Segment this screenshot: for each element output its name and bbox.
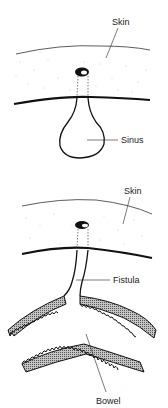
skin-surface-line	[16, 46, 150, 54]
bowel-wall-lower	[22, 344, 144, 372]
bowel-label: Bowel	[96, 396, 121, 406]
sinus-bulb	[60, 98, 105, 158]
sinus-panel: Skin Sinus	[14, 17, 150, 158]
fistula-label: Fistula	[113, 275, 140, 285]
bowel-wall-upper-left	[8, 296, 66, 336]
fistula-panel: Skin Fistula Bowel	[8, 186, 156, 406]
bowel-wall-upper-right	[80, 296, 156, 338]
sinus-label: Sinus	[121, 135, 144, 145]
skin-surface-line-2	[22, 200, 152, 214]
skin-label-2: Skin	[124, 186, 142, 196]
diagram-canvas: Skin Sinus Skin Fistula	[0, 0, 168, 408]
skin-label-1: Skin	[112, 17, 130, 27]
stipple-tissue-2	[25, 213, 142, 244]
